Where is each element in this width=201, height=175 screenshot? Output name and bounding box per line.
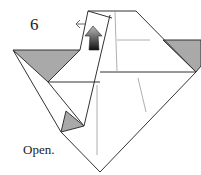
left-shaded-flap — [13, 50, 80, 82]
origami-diagram: 6 Open. — [0, 0, 201, 175]
crease-lines — [97, 12, 150, 155]
open-arrow-icon — [76, 20, 102, 50]
instruction-text: Open. — [23, 142, 54, 158]
step-number: 6 — [30, 15, 39, 35]
